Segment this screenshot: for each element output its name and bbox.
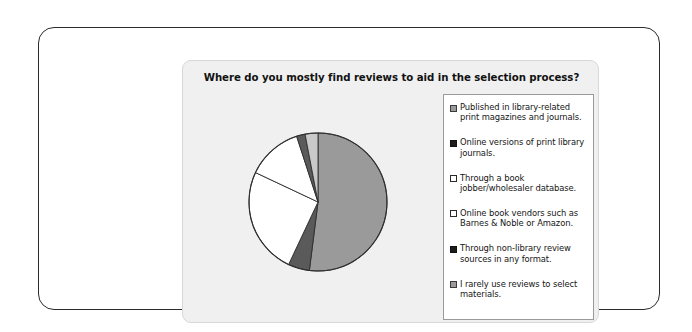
legend-item-label: Published in library-related print magaz… [460,102,588,123]
legend-item[interactable]: Published in library-related print magaz… [450,102,588,123]
legend-swatch-icon [450,140,457,147]
legend-item[interactable]: Online versions of print library journal… [450,137,588,158]
legend-item-label: Through a book jobber/wholesaler databas… [460,173,588,194]
legend-item-label: Online book vendors such as Barnes & Nob… [460,208,588,229]
document-frame: Where do you mostly find reviews to aid … [38,27,660,310]
pie-chart-svg [248,132,388,272]
legend-item-label: I rarely use reviews to select materials… [460,279,588,300]
legend-item[interactable]: I rarely use reviews to select materials… [450,279,588,300]
legend-item[interactable]: Through non-library review sources in an… [450,243,588,264]
legend-swatch-icon [450,246,457,253]
legend-swatch-icon [450,281,457,288]
legend-item[interactable]: Online book vendors such as Barnes & Nob… [450,208,588,229]
chart-legend: Published in library-related print magaz… [443,94,594,320]
legend-item-label: Online versions of print library journal… [460,137,588,158]
legend-item[interactable]: Through a book jobber/wholesaler databas… [450,173,588,194]
chart-panel: Where do you mostly find reviews to aid … [182,60,599,323]
pie-slice[interactable] [309,133,387,271]
legend-swatch-icon [450,105,457,112]
legend-item-label: Through non-library review sources in an… [460,243,588,264]
pie-chart [248,132,388,272]
legend-swatch-icon [450,175,457,182]
legend-swatch-icon [450,210,457,217]
chart-title: Where do you mostly find reviews to aid … [183,72,600,83]
